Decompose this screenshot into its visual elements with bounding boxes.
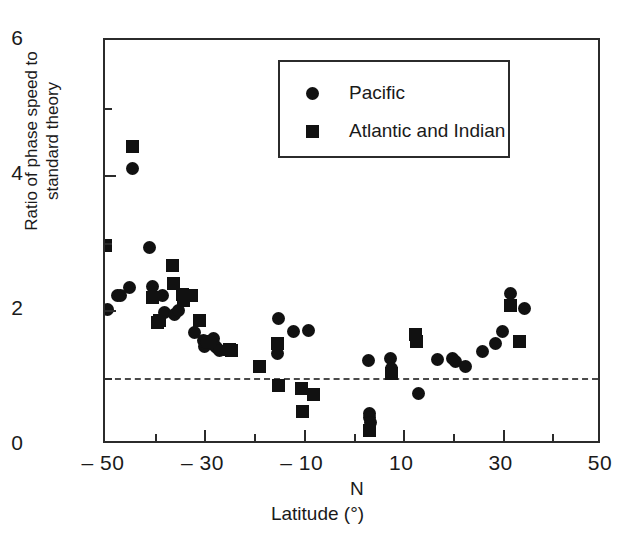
data-point-circle: [431, 353, 444, 366]
data-point-circle: [412, 387, 425, 400]
data-point-circle: [126, 162, 139, 175]
y-axis-tick-minor: [105, 378, 112, 380]
data-point-square: [153, 314, 166, 327]
x-axis-tick-label: – 10: [267, 452, 337, 473]
data-point-circle: [459, 360, 472, 373]
data-point-square: [185, 289, 198, 302]
data-point-circle: [362, 354, 375, 367]
data-point-circle: [302, 324, 315, 337]
legend-label-atlantic-indian: Atlantic and Indian: [349, 120, 505, 142]
hemisphere-marker-label: N: [350, 478, 364, 500]
data-point-circle: [496, 325, 509, 338]
y-axis-tick-label: 0: [0, 432, 23, 453]
x-axis-tick-minor: [453, 434, 455, 441]
data-point-square: [295, 382, 308, 395]
data-point-square: [203, 335, 216, 348]
x-axis-title: Latitude (°): [0, 503, 635, 525]
x-axis-tick-minor: [254, 434, 256, 441]
legend-item-pacific: Pacific: [280, 76, 508, 110]
data-point-circle: [272, 312, 285, 325]
data-point-circle: [476, 345, 489, 358]
reference-line-unity: [105, 378, 598, 380]
x-axis-tick-minor: [552, 434, 554, 441]
x-axis-tick-major: [204, 430, 206, 441]
data-point-square: [105, 239, 112, 252]
data-point-square: [410, 335, 423, 348]
data-point-circle: [518, 302, 531, 315]
y-axis-tick-label: 2: [0, 297, 23, 318]
x-axis-tick-label: 50: [565, 452, 635, 473]
x-axis-tick-major: [403, 430, 405, 441]
data-point-circle: [287, 325, 300, 338]
data-point-circle: [123, 281, 136, 294]
x-axis-tick-major: [304, 430, 306, 441]
y-axis-tick-minor: [105, 243, 112, 245]
y-axis-title: Ratio of phase speed to standard theory: [21, 16, 63, 266]
legend-square-marker-icon: [306, 125, 319, 138]
data-point-square: [193, 314, 206, 327]
x-axis-tick-minor: [155, 434, 157, 441]
y-axis-tick-label: 4: [0, 162, 23, 183]
data-point-square: [296, 405, 309, 418]
data-point-square: [385, 367, 398, 380]
y-axis-tick-major: [105, 310, 116, 312]
x-axis-tick-label: 30: [466, 452, 536, 473]
data-point-square: [271, 337, 284, 350]
data-point-square: [146, 291, 159, 304]
data-point-circle: [489, 337, 502, 350]
y-axis-tick-label: 6: [0, 27, 23, 48]
data-point-square: [225, 344, 238, 357]
data-point-square: [272, 379, 285, 392]
data-point-square: [307, 388, 320, 401]
legend-label-pacific: Pacific: [349, 82, 405, 104]
data-point-square: [166, 259, 179, 272]
data-point-square: [513, 335, 526, 348]
legend-item-atlantic-indian: Atlantic and Indian: [280, 114, 508, 148]
x-axis-tick-label: – 30: [167, 452, 237, 473]
data-point-circle: [143, 241, 156, 254]
x-axis-tick-label: 10: [366, 452, 436, 473]
x-axis-tick-minor: [354, 434, 356, 441]
x-axis-tick-major: [503, 430, 505, 441]
data-point-square: [363, 424, 376, 437]
data-point-circle: [504, 287, 517, 300]
scatter-chart-figure: 0246 – 50– 30– 10103050 Ratio of phase s…: [0, 0, 635, 537]
chart-legend: Pacific Atlantic and Indian: [278, 60, 510, 158]
data-point-square: [253, 360, 266, 373]
data-point-square: [504, 299, 517, 312]
x-axis-tick-label: – 50: [68, 452, 138, 473]
y-axis-tick-minor: [105, 108, 112, 110]
legend-circle-marker-icon: [306, 87, 319, 100]
data-point-square: [126, 140, 139, 153]
y-axis-tick-major: [105, 175, 116, 177]
